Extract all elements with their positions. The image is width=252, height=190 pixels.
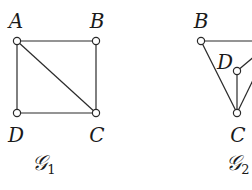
- g2-node-label-d: D: [217, 52, 233, 72]
- g1-caption-index: 1: [47, 162, 55, 177]
- g1-node-label-b: B: [90, 11, 105, 31]
- g1-node-label-c: C: [89, 125, 104, 145]
- g2-caption-index: 2: [241, 162, 249, 177]
- g2-edge-c-offscreen: [237, 74, 252, 113]
- g2-node-d: [233, 67, 240, 74]
- g1-caption-script: 𝒢: [32, 151, 47, 175]
- g2-node-c: [233, 109, 240, 116]
- g2-node-b: [197, 37, 204, 44]
- g1-node-label-a: A: [9, 11, 23, 31]
- graph-g1: [13, 37, 99, 116]
- g1-node-label-d: D: [8, 125, 24, 145]
- g2-caption-script: 𝒢: [226, 151, 241, 175]
- g1-node-b: [92, 37, 99, 44]
- g2-node-label-b: B: [194, 11, 209, 31]
- g1-node-a: [13, 37, 20, 44]
- g1-node-c: [92, 109, 99, 116]
- g1-caption: 𝒢1: [32, 153, 55, 176]
- g1-node-d: [13, 109, 20, 116]
- g2-node-label-c: C: [230, 125, 245, 145]
- g2-caption: 𝒢2: [226, 153, 249, 176]
- g1-edge-a-c: [17, 41, 96, 113]
